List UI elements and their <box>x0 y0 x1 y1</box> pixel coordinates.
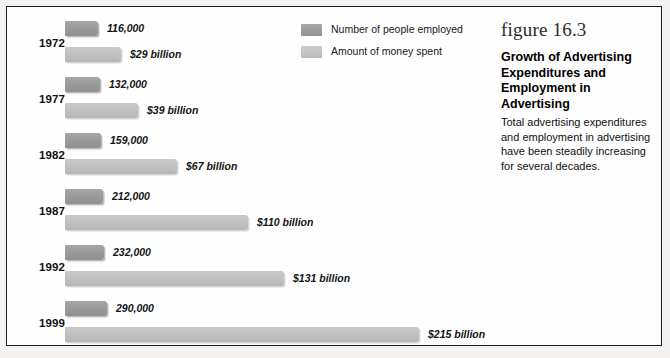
bar-employed <box>65 133 101 148</box>
figure-number: figure 16.3 <box>501 19 653 41</box>
bar-value-money: $215 billion <box>428 327 485 342</box>
year-label: 1982 <box>21 149 65 161</box>
bar-money <box>65 159 177 174</box>
bar-value-employed: 116,000 <box>107 21 144 36</box>
chart-row: 1982159,000$67 billion <box>7 133 487 181</box>
chart-row: 1987212,000$110 billion <box>7 189 487 237</box>
bar-group-employed: 212,000 <box>65 189 103 206</box>
bar-value-money: $110 billion <box>257 215 313 230</box>
figure-root: 1972116,000$29 billion1977132,000$39 bil… <box>0 0 670 358</box>
year-label: 1992 <box>21 261 65 273</box>
bar-value-money: $131 billion <box>293 271 350 286</box>
chart-row: 1999290,000$215 billion <box>7 301 487 349</box>
legend-item: Amount of money spent <box>301 43 491 65</box>
bar-group-money: $110 billion <box>65 215 248 232</box>
bar-money <box>65 103 138 118</box>
chart-row: 1992232,000$131 billion <box>7 245 487 293</box>
bar-value-employed: 132,000 <box>109 77 147 92</box>
legend-label: Number of people employed <box>331 21 463 38</box>
year-label: 1999 <box>21 317 65 329</box>
year-label: 1987 <box>21 205 65 217</box>
bar-group-employed: 232,000 <box>65 245 104 262</box>
legend-item: Number of people employed <box>301 21 491 43</box>
figure-frame: 1972116,000$29 billion1977132,000$39 bil… <box>6 6 662 346</box>
legend-swatch-employed <box>301 24 322 36</box>
year-label: 1977 <box>21 93 65 105</box>
bar-group-employed: 132,000 <box>65 77 100 94</box>
bar-employed <box>65 21 98 36</box>
bar-employed <box>65 77 100 92</box>
chart-row: 1977132,000$39 billion <box>7 77 487 125</box>
bar-value-employed: 290,000 <box>116 301 154 316</box>
bar-group-money: $131 billion <box>65 271 284 288</box>
bar-group-employed: 290,000 <box>65 301 107 318</box>
caption-panel: figure 16.3 Growth of Advertising Expend… <box>501 19 653 173</box>
bar-group-employed: 116,000 <box>65 21 98 38</box>
bar-employed <box>65 245 104 260</box>
bar-employed <box>65 301 107 316</box>
bar-value-employed: 159,000 <box>110 133 148 148</box>
bar-value-money: $67 billion <box>186 159 237 174</box>
bar-group-employed: 159,000 <box>65 133 101 150</box>
chart-legend: Number of people employedAmount of money… <box>301 21 491 65</box>
bar-group-money: $215 billion <box>65 327 419 344</box>
year-label: 1972 <box>21 37 65 49</box>
bar-money <box>65 215 248 230</box>
bar-value-money: $39 billion <box>147 103 198 118</box>
bar-money <box>65 47 121 62</box>
legend-label: Amount of money spent <box>331 43 442 60</box>
bar-group-money: $39 billion <box>65 103 138 120</box>
bar-money <box>65 327 419 342</box>
bar-group-money: $29 billion <box>65 47 121 64</box>
legend-swatch-money <box>301 46 322 58</box>
bar-money <box>65 271 284 286</box>
figure-caption: Total advertising expenditures and emplo… <box>501 115 653 173</box>
bar-employed <box>65 189 103 204</box>
bar-value-employed: 212,000 <box>112 189 150 204</box>
bar-value-money: $29 billion <box>130 47 181 62</box>
figure-title: Growth of Advertising Expenditures and E… <box>501 50 653 112</box>
bar-group-money: $67 billion <box>65 159 177 176</box>
bar-value-employed: 232,000 <box>113 245 151 260</box>
